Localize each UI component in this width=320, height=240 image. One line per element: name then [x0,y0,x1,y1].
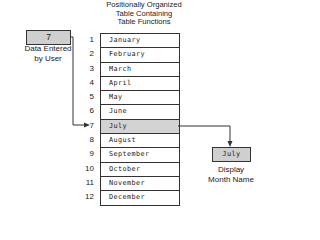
output-label-line-2: Month Name [196,175,266,185]
display-output-box: July [212,147,251,162]
output-label-line-1: Display [196,165,266,175]
input-connector [70,37,84,125]
input-arrow-icon [84,123,90,128]
output-connector [178,126,230,141]
output-label: Display Month Name [196,165,266,185]
